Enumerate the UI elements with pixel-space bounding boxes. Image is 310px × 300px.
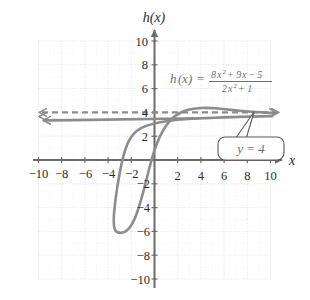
y-tick-label--8: −8: [137, 249, 150, 263]
equation-numerator-coef: 8: [211, 69, 216, 80]
x-tick-label--4: −4: [102, 167, 116, 181]
equation-denominator-plus: + 1: [238, 83, 252, 94]
equation-denominator-x: x: [227, 83, 233, 94]
equation-numerator-plus: + 9: [227, 69, 241, 80]
x-tick-label--6: −6: [79, 167, 92, 181]
x-tick-label-8: 8: [244, 169, 250, 183]
y-tick-label-2: 2: [142, 130, 148, 144]
equation-label: h ( x ) = 8 x 2 + 9 x − 5 2 x 2 + 1: [170, 68, 272, 95]
y-tick-label--10: −10: [130, 273, 150, 287]
y-tick-label-6: 6: [142, 82, 148, 96]
equation-numerator-x2: x: [241, 69, 247, 80]
graph-figure: −10 −8 −6 −4 −2 2 4 6 8 10 10 8 6 4 2 −2…: [0, 0, 310, 300]
x-tick-label-2: 2: [175, 169, 181, 183]
equation-numerator-x1: x: [216, 69, 222, 80]
y-tick-label--6: −6: [137, 225, 150, 239]
equation-denominator-coef: 2: [222, 83, 227, 94]
y-tick-label-4: 4: [142, 106, 149, 120]
equation-lhs-fn: h: [170, 71, 177, 86]
x-tick-label--10: −10: [29, 167, 49, 181]
equation-numerator-minus: − 5: [248, 69, 262, 80]
equation-lhs-var: x: [181, 71, 188, 86]
equation-equals: =: [196, 71, 205, 86]
x-tick-label-10: 10: [264, 169, 277, 183]
x-tick-label-6: 6: [221, 169, 227, 183]
equation-numerator-exponent: 2: [223, 68, 227, 76]
x-tick-label--8: −8: [55, 167, 68, 181]
asymptote-callout: y = 4: [218, 112, 284, 160]
equation-denominator-exponent: 2: [234, 82, 238, 90]
equation-lhs-close: ): [187, 71, 192, 86]
y-tick-label-8: 8: [142, 58, 148, 72]
y-tick-label--4: −4: [137, 201, 151, 215]
callout-label: y = 4: [235, 141, 265, 156]
x-tick-label-4: 4: [198, 169, 205, 183]
y-tick-label--2: −2: [137, 177, 150, 191]
x-axis-title: x: [288, 153, 296, 168]
y-tick-label-10: 10: [136, 35, 149, 49]
function-graph: −10 −8 −6 −4 −2 2 4 6 8 10 10 8 6 4 2 −2…: [0, 0, 310, 300]
y-axis-title: h(x): [143, 10, 166, 26]
